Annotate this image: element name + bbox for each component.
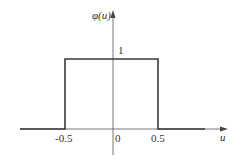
x-tick-pos-half: 0.5	[151, 133, 165, 144]
y-axis-label: φ(u)	[92, 10, 111, 21]
x-tick-neg-half: -0.5	[55, 133, 72, 144]
y-axis-arrow-icon	[111, 10, 116, 18]
x-axis-label: u	[220, 132, 226, 143]
x-tick-zero: 0	[115, 133, 121, 144]
box-function-line	[20, 59, 205, 129]
y-tick-1: 1	[118, 45, 124, 56]
